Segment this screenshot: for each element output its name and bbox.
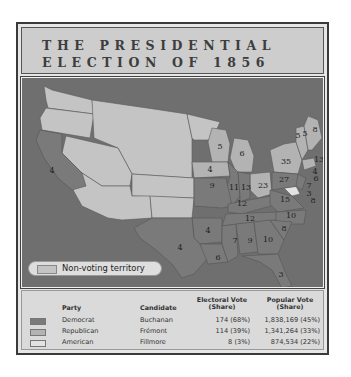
electoral-cell: 8 (3%) bbox=[192, 338, 250, 346]
svg-text:6: 6 bbox=[313, 174, 318, 183]
svg-text:4: 4 bbox=[207, 165, 212, 174]
svg-text:3: 3 bbox=[278, 270, 283, 279]
svg-text:11: 11 bbox=[229, 183, 239, 192]
candidate-cell: Frémont bbox=[140, 327, 167, 335]
header-popular-vote: Popular Vote (Share) bbox=[260, 297, 320, 310]
republican-swatch bbox=[30, 329, 46, 336]
svg-text:4: 4 bbox=[177, 243, 182, 252]
svg-text:5: 5 bbox=[217, 142, 222, 151]
map-figure-frame: THE PRESIDENTIAL ELECTION OF 1856 bbox=[16, 22, 329, 355]
svg-text:12: 12 bbox=[237, 199, 247, 208]
svg-text:8: 8 bbox=[310, 196, 315, 205]
svg-text:7: 7 bbox=[232, 236, 237, 245]
democrat-swatch bbox=[30, 318, 46, 325]
svg-text:23: 23 bbox=[258, 181, 268, 190]
title-line-2: ELECTION OF 1856 bbox=[42, 55, 270, 70]
header-party: Party bbox=[62, 305, 81, 312]
non-voting-swatch bbox=[37, 265, 57, 274]
popular-cell: 1,838,169 (45%) bbox=[258, 316, 320, 324]
title-line-1: THE PRESIDENTIAL bbox=[42, 38, 276, 53]
header-candidate: Candidate bbox=[140, 305, 177, 312]
party-cell: Democrat bbox=[62, 316, 95, 324]
electoral-cell: 114 (39%) bbox=[192, 327, 250, 335]
svg-text:9: 9 bbox=[209, 181, 214, 190]
svg-text:6: 6 bbox=[239, 149, 244, 158]
popular-cell: 874,534 (22%) bbox=[258, 338, 320, 346]
non-voting-label: Non-voting territory bbox=[62, 263, 145, 273]
popular-cell: 1,341,264 (33%) bbox=[258, 327, 320, 335]
electoral-cell: 174 (68%) bbox=[192, 316, 250, 324]
svg-text:12: 12 bbox=[245, 214, 255, 223]
svg-text:5: 5 bbox=[295, 131, 300, 140]
candidate-cell: Fillmore bbox=[140, 338, 166, 346]
svg-text:10: 10 bbox=[263, 235, 273, 244]
svg-text:10: 10 bbox=[286, 211, 296, 220]
party-cell: American bbox=[62, 338, 93, 346]
non-voting-legend: Non-voting territory bbox=[28, 261, 162, 276]
non-voting-territories bbox=[40, 86, 220, 220]
svg-text:27: 27 bbox=[279, 175, 289, 184]
svg-text:4: 4 bbox=[49, 166, 54, 175]
svg-text:13: 13 bbox=[241, 183, 251, 192]
svg-text:35: 35 bbox=[281, 157, 291, 166]
party-cell: Republican bbox=[62, 327, 98, 335]
svg-text:9: 9 bbox=[247, 236, 252, 245]
candidate-cell: Buchanan bbox=[140, 316, 173, 324]
results-table: Party Candidate Electoral Vote (Share) P… bbox=[21, 290, 324, 350]
svg-text:5: 5 bbox=[302, 129, 307, 138]
svg-text:6: 6 bbox=[215, 253, 220, 262]
us-map-svg: 4 4 4 5 6 11 13 23 27 35 5 5 8 13 4 6 7 … bbox=[22, 78, 324, 288]
svg-text:8: 8 bbox=[281, 224, 286, 233]
svg-text:4: 4 bbox=[205, 226, 210, 235]
svg-text:8: 8 bbox=[312, 125, 317, 134]
american-swatch bbox=[30, 340, 46, 347]
svg-text:15: 15 bbox=[280, 195, 290, 204]
title-box: THE PRESIDENTIAL ELECTION OF 1856 bbox=[21, 27, 324, 74]
svg-text:13: 13 bbox=[314, 155, 324, 164]
election-map: 4 4 4 5 6 11 13 23 27 35 5 5 8 13 4 6 7 … bbox=[21, 77, 324, 288]
header-electoral-vote: Electoral Vote (Share) bbox=[192, 297, 252, 310]
